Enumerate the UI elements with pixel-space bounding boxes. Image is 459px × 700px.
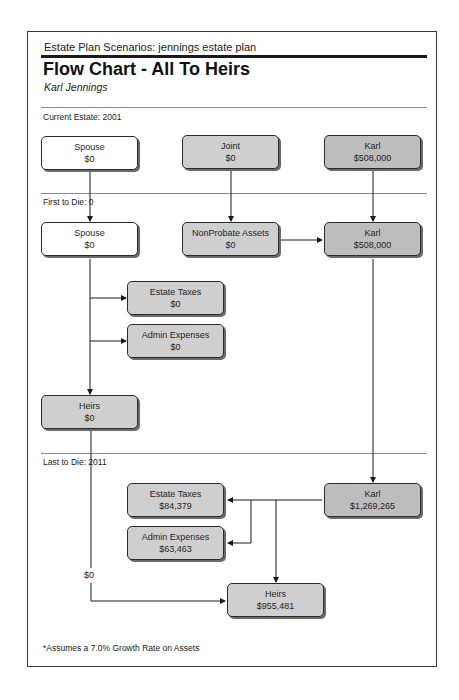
box-value: $1,269,265 (325, 500, 420, 512)
header-rule (41, 55, 427, 58)
box-name: NonProbate Assets (183, 227, 278, 239)
box-name: Joint (183, 140, 278, 152)
first-nonprobate-box: NonProbate Assets $0 (182, 222, 279, 256)
page-title: Flow Chart - All To Heirs (43, 59, 250, 80)
section-divider-current (41, 107, 427, 108)
box-name: Karl (325, 140, 420, 152)
section-label-current: Current Estate: 2001 (43, 112, 121, 122)
transfer-amount-label: $0 (84, 570, 94, 580)
box-value: $0 (42, 412, 137, 424)
box-name: Spouse (42, 141, 137, 153)
current-spouse-box: Spouse $0 (41, 136, 138, 170)
first-spouse-box: Spouse $0 (41, 222, 138, 256)
box-name: Karl (325, 227, 420, 239)
first-heirs-box: Heirs $0 (41, 395, 138, 429)
section-label-last-to-die: Last to Die: 2011 (43, 457, 107, 467)
box-value: $84,379 (128, 500, 223, 512)
box-value: $0 (183, 152, 278, 164)
box-name: Estate Taxes (128, 488, 223, 500)
current-joint-box: Joint $0 (182, 135, 279, 169)
section-label-first-to-die: First to Die: 0 (43, 197, 94, 207)
box-value: $0 (128, 298, 223, 310)
client-name: Karl Jennings (44, 81, 108, 93)
box-name: Estate Taxes (128, 286, 223, 298)
box-value: $955,481 (228, 600, 323, 612)
box-name: Karl (325, 488, 420, 500)
box-name: Admin Expenses (128, 531, 223, 543)
section-divider-last (41, 453, 427, 454)
section-divider-first (41, 193, 427, 194)
last-admin-expenses-box: Admin Expenses $63,463 (127, 526, 224, 560)
box-value: $0 (128, 341, 223, 353)
last-heirs-box: Heirs $955,481 (227, 583, 324, 617)
box-value: $0 (42, 239, 137, 251)
box-value: $0 (183, 239, 278, 251)
first-admin-expenses-box: Admin Expenses $0 (127, 324, 224, 358)
box-value: $508,000 (325, 152, 420, 164)
scenario-header: Estate Plan Scenarios: jennings estate p… (44, 41, 256, 53)
box-name: Heirs (228, 588, 323, 600)
box-name: Admin Expenses (128, 329, 223, 341)
last-estate-taxes-box: Estate Taxes $84,379 (127, 483, 224, 517)
current-karl-box: Karl $508,000 (324, 135, 421, 169)
growth-rate-footnote: *Assumes a 7.0% Growth Rate on Assets (43, 643, 199, 653)
box-value: $63,463 (128, 543, 223, 555)
box-name: Spouse (42, 227, 137, 239)
box-value: $508,000 (325, 239, 420, 251)
box-value: $0 (42, 153, 137, 165)
first-estate-taxes-box: Estate Taxes $0 (127, 281, 224, 315)
last-karl-box: Karl $1,269,265 (324, 483, 421, 517)
box-name: Heirs (42, 400, 137, 412)
first-karl-box: Karl $508,000 (324, 222, 421, 256)
